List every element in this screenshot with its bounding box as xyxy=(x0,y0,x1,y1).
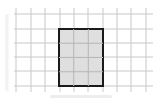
grid-diagram xyxy=(0,0,162,99)
